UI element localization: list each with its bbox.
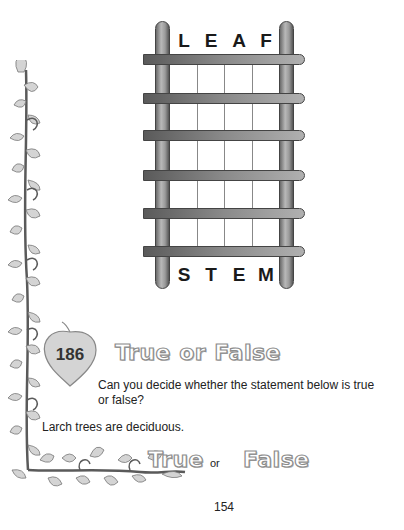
question-title: True or False bbox=[115, 340, 281, 365]
answer-false-button[interactable]: False bbox=[243, 447, 310, 472]
top-word-letter: A bbox=[225, 30, 253, 52]
bottom-word-letter: S bbox=[170, 264, 198, 286]
answer-true-button[interactable]: True bbox=[148, 447, 204, 472]
ladder-rung-1 bbox=[143, 54, 305, 65]
bottom-word-letter: E bbox=[225, 264, 253, 286]
answer-row-5[interactable] bbox=[171, 220, 278, 245]
answer-row-4[interactable] bbox=[171, 182, 278, 207]
question-number: 186 bbox=[40, 345, 100, 365]
word-ladder-puzzle: L E A F S T E M bbox=[0, 0, 404, 300]
top-word-letter: E bbox=[197, 30, 225, 52]
ladder-rung-2 bbox=[143, 93, 305, 104]
ladder-rung-3 bbox=[143, 130, 305, 141]
answer-row-2[interactable] bbox=[171, 105, 278, 129]
answer-row-3[interactable] bbox=[171, 142, 278, 169]
question-number-badge: 186 bbox=[40, 320, 100, 390]
answer-or-label: or bbox=[210, 456, 220, 471]
page-number: 154 bbox=[214, 500, 234, 515]
question-statement: Larch trees are deciduous. bbox=[42, 420, 184, 435]
top-word-letter: F bbox=[252, 30, 280, 52]
ladder-rung-6 bbox=[143, 246, 305, 257]
question-prompt: Can you decide whether the statement bel… bbox=[98, 378, 388, 408]
ladder-rung-4 bbox=[143, 170, 305, 181]
ladder-rung-5 bbox=[143, 208, 305, 219]
bottom-word-letter: M bbox=[252, 264, 280, 286]
answer-row-1[interactable] bbox=[171, 66, 278, 92]
bottom-word-letter: T bbox=[197, 264, 225, 286]
top-word-letter: L bbox=[170, 30, 198, 52]
